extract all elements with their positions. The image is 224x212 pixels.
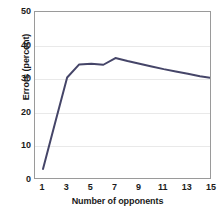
y-tick-50: 50 xyxy=(5,7,31,16)
x-tick-3: 3 xyxy=(58,182,74,192)
data-series-errors xyxy=(35,12,211,179)
y-tick-20: 20 xyxy=(5,108,31,117)
x-tick-9: 9 xyxy=(131,182,147,192)
y-tick-40: 40 xyxy=(5,41,31,50)
plot-area xyxy=(34,11,211,179)
chart-figure: Errors (percent) 50403020100 13579111315… xyxy=(0,0,224,212)
x-tick-13: 13 xyxy=(179,182,195,192)
x-tick-1: 1 xyxy=(34,182,50,192)
x-tick-11: 11 xyxy=(155,182,171,192)
x-tick-5: 5 xyxy=(82,182,98,192)
y-tick-0: 0 xyxy=(5,175,31,184)
y-axis-tick-labels: 50403020100 xyxy=(0,0,31,212)
y-tick-10: 10 xyxy=(5,141,31,150)
x-axis-tick-labels: 13579111315 xyxy=(34,182,211,194)
x-tick-15: 15 xyxy=(203,182,219,192)
y-tick-30: 30 xyxy=(5,74,31,83)
x-tick-7: 7 xyxy=(106,182,122,192)
x-axis-label: Number of opponents xyxy=(20,196,215,206)
